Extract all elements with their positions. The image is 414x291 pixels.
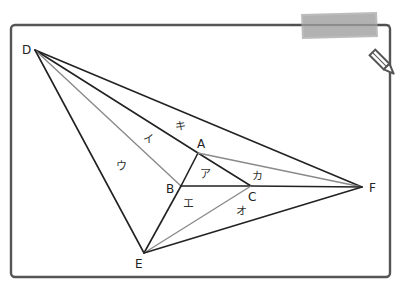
vertex-label-D: D [22, 43, 31, 57]
vertex-label-C: C [248, 190, 256, 204]
region-label-a: ア [200, 168, 211, 181]
vertex-label-B: B [166, 182, 174, 196]
paper-frame [11, 25, 390, 277]
vertex-label-E: E [135, 257, 143, 271]
region-label-u: ウ [116, 160, 127, 173]
vertex-label-F: F [369, 181, 376, 195]
edge-CF [251, 186, 362, 187]
region-label-o: オ [236, 205, 247, 218]
region-label-e: エ [183, 197, 194, 210]
vertex-label-A: A [197, 137, 206, 151]
region-label-ka: カ [252, 170, 263, 183]
region-label-i: イ [143, 133, 154, 146]
diagram-canvas: アイウエオカキ DABCEF [0, 0, 414, 291]
region-label-ki: キ [175, 120, 186, 133]
masking-tape-icon [290, 12, 390, 39]
